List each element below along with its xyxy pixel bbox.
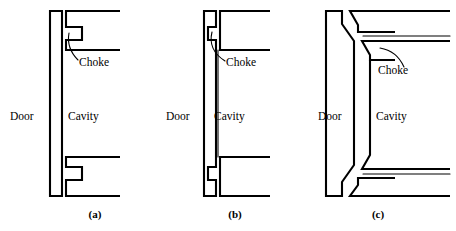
door-profile-b [204, 11, 216, 196]
choke-label-c: Choke [378, 64, 408, 76]
door-profile-a [50, 11, 62, 196]
choke-slot-lower-c [362, 150, 450, 169]
cavity-wall-lower-a [66, 157, 120, 196]
cavity-wall-upper-c [350, 11, 450, 32]
cavity-label-c: Cavity [376, 110, 407, 123]
door-label-b: Door [166, 110, 190, 122]
cavity-label-a: Cavity [68, 110, 99, 123]
cavity-wall-lower-c [350, 178, 450, 196]
panel-b-drawing: Door Cavity Choke (b) [160, 0, 310, 231]
door-label-c: Door [318, 110, 342, 122]
caption-b: (b) [228, 208, 242, 221]
cavity-wall-upper-a [66, 11, 120, 50]
panel-c-drawing: Door Cavity Choke (c) [300, 0, 456, 231]
panel-a-drawing: Door Cavity Choke (a) [0, 0, 160, 231]
door-label-a: Door [10, 110, 34, 122]
choke-label-b: Choke [226, 56, 256, 68]
panel-b: Door Cavity Choke (b) [160, 0, 310, 231]
figure-root: Door Cavity Choke (a) Door Cavity Choke … [0, 0, 456, 231]
caption-c: (c) [372, 208, 385, 221]
caption-a: (a) [89, 208, 102, 221]
choke-leader-a [68, 33, 78, 60]
cavity-wall-lower-b [220, 157, 270, 196]
door-profile-c [326, 11, 354, 196]
panel-c: Door Cavity Choke (c) [300, 0, 456, 231]
choke-slot-upper-c [362, 41, 450, 60]
panel-a: Door Cavity Choke (a) [0, 0, 160, 231]
cavity-wall-upper-b [220, 11, 270, 50]
choke-label-a: Choke [79, 56, 109, 68]
cavity-label-b: Cavity [214, 110, 245, 123]
